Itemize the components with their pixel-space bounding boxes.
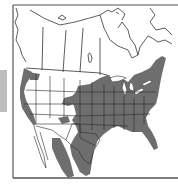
range-map <box>0 0 178 190</box>
land-outlines <box>15 8 172 76</box>
